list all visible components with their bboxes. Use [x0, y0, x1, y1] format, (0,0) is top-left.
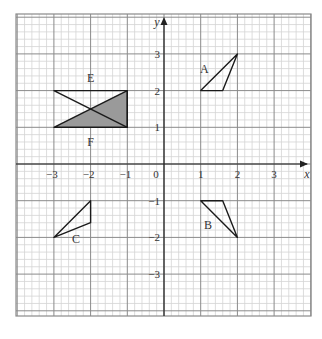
shape-label-C: C — [72, 232, 80, 246]
y-tick-label: −2 — [148, 231, 160, 243]
y-tick-label: 2 — [155, 85, 161, 97]
shape-label-B: B — [204, 218, 212, 232]
y-tick-label: 1 — [155, 121, 161, 133]
x-tick-label: 3 — [271, 168, 277, 180]
y-axis-label: y — [153, 15, 160, 29]
axes — [16, 17, 308, 316]
x-tick-label: −2 — [83, 168, 95, 180]
y-tick-label: 3 — [155, 48, 161, 60]
y-tick-label: −1 — [148, 195, 160, 207]
coordinate-grid: −3−2−1123321−1−2−30xyABCEF — [0, 0, 322, 339]
y-axis-arrow-icon — [161, 17, 168, 25]
labels: −3−2−1123321−1−2−30xyABCEF — [46, 15, 310, 280]
shape-label-E: E — [87, 71, 94, 85]
x-axis-label: x — [303, 167, 310, 181]
shapes — [54, 54, 238, 238]
origin-label: 0 — [153, 168, 159, 180]
y-tick-label: −3 — [148, 268, 160, 280]
x-tick-label: −1 — [119, 168, 131, 180]
x-tick-label: −3 — [46, 168, 58, 180]
x-tick-label: 1 — [198, 168, 204, 180]
shape-label-A: A — [200, 62, 209, 76]
x-tick-label: 2 — [235, 168, 241, 180]
shape-label-F: F — [87, 135, 94, 149]
